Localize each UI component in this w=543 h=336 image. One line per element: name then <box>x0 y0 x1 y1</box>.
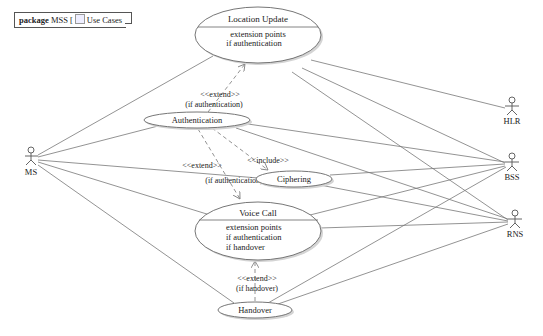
use-case-name: Voice Call <box>239 208 277 218</box>
actor-label: HLR <box>504 116 521 126</box>
actor-label: MS <box>25 167 38 177</box>
assoc-vc-bss <box>310 166 505 215</box>
assoc-ms-authentication <box>38 126 158 157</box>
extension-point: if handover <box>226 242 265 252</box>
actor-bss[interactable]: BSS <box>504 153 519 182</box>
use-case-voice-call[interactable]: Voice Call extension points if authentic… <box>195 202 323 262</box>
use-case-handover[interactable]: Handover <box>218 302 294 320</box>
extension-point: if authentication <box>226 232 282 242</box>
use-case-name: Location Update <box>228 14 288 24</box>
extend-label-vc: <<extend>> <box>182 161 222 170</box>
stick-figure-icon <box>25 147 38 165</box>
actor-rns[interactable]: RNS <box>507 210 524 239</box>
assoc-lu-hlr <box>311 60 505 108</box>
actor-ms[interactable]: MS <box>25 147 38 177</box>
extend-condition-lu: (if authentication) <box>185 100 243 109</box>
extend-condition-ho: (if handover) <box>236 284 278 293</box>
use-case-authentication[interactable]: Authentication <box>144 112 252 130</box>
use-case-name: Ciphering <box>277 174 312 184</box>
actor-label: RNS <box>507 229 524 239</box>
extension-point: if authentication <box>226 38 282 48</box>
extension-points-header: extension points <box>226 222 281 232</box>
assoc-vc-rns <box>320 222 508 228</box>
actor-label: BSS <box>504 172 519 182</box>
actor-hlr[interactable]: HLR <box>504 97 521 126</box>
stick-figure-icon <box>508 210 522 228</box>
assoc-lu-rns <box>292 72 508 220</box>
stick-figure-icon <box>505 97 519 115</box>
use-case-name: Handover <box>238 305 272 315</box>
use-case-ciphering[interactable]: Ciphering <box>256 171 334 189</box>
assoc-ciph-rns <box>320 185 508 221</box>
extend-condition-vc: (if authentication) <box>205 176 263 185</box>
stick-figure-icon <box>505 153 519 171</box>
assoc-ciph-bss <box>330 164 505 175</box>
use-case-name: Authentication <box>172 115 223 125</box>
include-label: <<include>> <box>247 156 289 165</box>
extend-label-lu: <<extend>> <box>200 90 240 99</box>
extend-label-ho: <<extend>> <box>237 274 277 283</box>
use-case-diagram: <<extend>> (if authentication) <<extend>… <box>0 0 543 336</box>
use-case-location-update[interactable]: Location Update extension points if auth… <box>195 7 323 65</box>
